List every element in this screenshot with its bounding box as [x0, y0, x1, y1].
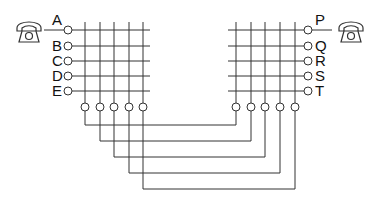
terminals [64, 26, 312, 111]
left-grid-rows [72, 30, 150, 91]
telephone-icon [17, 22, 41, 42]
line-label-p: P [315, 12, 325, 27]
line-label-e: E [52, 83, 62, 98]
line-label-d: D [52, 68, 63, 83]
telephone-icon [339, 22, 363, 42]
line-label-c: C [52, 53, 63, 68]
line-label-a: A [52, 12, 62, 27]
line-label-t: T [315, 83, 324, 98]
line-label-b: B [52, 38, 62, 53]
line-label-q: Q [315, 38, 327, 53]
line-label-r: R [315, 53, 326, 68]
trunk-wires [85, 111, 295, 189]
right-grid-rows [228, 30, 304, 91]
crossbar-diagram [0, 0, 383, 200]
line-label-s: S [315, 68, 325, 83]
